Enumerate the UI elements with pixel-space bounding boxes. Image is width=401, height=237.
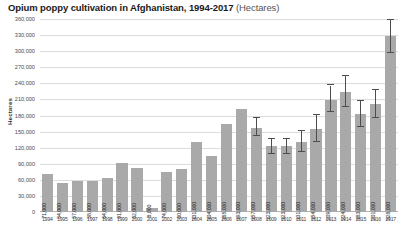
x-axis-tick: 2007 [234, 216, 249, 222]
x-axis-tick: 2002 [159, 216, 174, 222]
bar-slot: 91,000 [115, 19, 130, 212]
x-axis-tick-labels: 1994199519961997199819992000200120022003… [40, 216, 398, 222]
bar[interactable]: 57,000 [72, 181, 83, 212]
x-axis-tick: 2006 [219, 216, 234, 222]
bar[interactable]: 8,000 [146, 208, 157, 212]
bar[interactable]: 131,000 [191, 142, 202, 212]
x-axis-tick: 1996 [70, 216, 85, 222]
bar[interactable]: 64,000 [102, 178, 113, 212]
bar[interactable]: 224,000 [340, 92, 351, 212]
y-axis-tick: 0 [0, 209, 35, 215]
bar[interactable]: 131,000 [296, 142, 307, 212]
bar-slot: 209,000 [324, 19, 339, 212]
bar[interactable]: 71,000 [42, 174, 53, 212]
x-axis-tick: 2011 [294, 216, 309, 222]
error-bar-cap-upper [342, 75, 349, 76]
bar-slot: 201,000 [368, 19, 383, 212]
error-bar-cap-lower [327, 111, 334, 112]
x-axis-tick: 1998 [100, 216, 115, 222]
error-bar-cap-upper [253, 117, 260, 118]
bar-slot: 123,000 [264, 19, 279, 212]
x-axis-tick: 2014 [338, 216, 353, 222]
chart-title-units: (Hectares) [236, 2, 279, 13]
bar[interactable]: 193,000 [236, 109, 247, 212]
x-axis-tick: 1999 [115, 216, 130, 222]
x-axis-tick: 2003 [174, 216, 189, 222]
error-bar-cap-upper [357, 100, 364, 101]
bar[interactable]: 209,000 [325, 100, 336, 212]
error-bar-cap-upper [298, 130, 305, 131]
bar[interactable]: 91,000 [116, 163, 127, 212]
y-axis-tick: 300,000 [0, 48, 35, 54]
y-axis-tick: 240,000 [0, 80, 35, 86]
error-bar-cap-lower [357, 126, 364, 127]
bar-slot: 224,000 [338, 19, 353, 212]
bar[interactable]: 54,000 [57, 183, 68, 212]
bar[interactable]: 201,000 [370, 104, 381, 212]
x-axis-tick: 2008 [249, 216, 264, 222]
x-axis-tick: 2001 [144, 216, 159, 222]
bar[interactable]: 328,000 [385, 36, 396, 212]
error-bar-cap-upper [372, 89, 379, 90]
y-axis-tick: 150,000 [0, 129, 35, 135]
bar-slot: 157,000 [249, 19, 264, 212]
error-bar-line [301, 131, 302, 152]
x-axis-tick: 2015 [353, 216, 368, 222]
error-bar-cap-upper [327, 84, 334, 85]
x-axis-tick: 2009 [264, 216, 279, 222]
x-axis-tick: 2012 [309, 216, 324, 222]
bar-slot: 64,000 [100, 19, 115, 212]
plot-area: 360,000330,000300,000270,000240,000210,0… [40, 19, 398, 212]
error-bar-cap-upper [283, 138, 290, 139]
bar-slot: 183,000 [353, 19, 368, 212]
bar-slot: 131,000 [189, 19, 204, 212]
bar-slot: 123,000 [279, 19, 294, 212]
x-axis-tick: 2017 [383, 216, 398, 222]
bar-slot: 154,000 [309, 19, 324, 212]
bar[interactable]: 165,000 [221, 124, 232, 212]
x-axis-tick: 2016 [368, 216, 383, 222]
bar[interactable]: 157,000 [251, 128, 262, 212]
error-bar-cap-lower [253, 135, 260, 136]
error-bar-cap-lower [298, 151, 305, 152]
bar[interactable]: 123,000 [266, 146, 277, 212]
error-bar-line [390, 20, 391, 53]
x-axis-tick: 2004 [189, 216, 204, 222]
x-axis-tick: 2010 [279, 216, 294, 222]
bar[interactable]: 82,000 [131, 168, 142, 212]
error-bar-cap-upper [268, 138, 275, 139]
bar-slot: 74,000 [159, 19, 174, 212]
y-axis-tick: 270,000 [0, 64, 35, 70]
chart-title-text: Opium poppy cultivation in Afghanistan, … [8, 2, 233, 13]
y-axis-tick: 90,000 [0, 161, 35, 167]
bar-slot: 58,000 [85, 19, 100, 212]
bar[interactable]: 123,000 [281, 146, 292, 212]
y-axis-tick: 60,000 [0, 177, 35, 183]
error-bar-cap-lower [268, 153, 275, 154]
x-axis-tick: 2005 [204, 216, 219, 222]
bar-slot: 193,000 [234, 19, 249, 212]
chart-title: Opium poppy cultivation in Afghanistan, … [8, 2, 398, 13]
x-axis-tick: 1995 [55, 216, 70, 222]
error-bar-line [316, 115, 317, 142]
error-bar-line [360, 101, 361, 127]
error-bar-cap-lower [342, 106, 349, 107]
bar-slot: 165,000 [219, 19, 234, 212]
bar-slot: 104,000 [204, 19, 219, 212]
bar-slot: 57,000 [70, 19, 85, 212]
bar[interactable]: 104,000 [206, 156, 217, 212]
bar-slot: 8,000 [144, 19, 159, 212]
bar[interactable]: 183,000 [355, 114, 366, 212]
bar[interactable]: 74,000 [161, 172, 172, 212]
bar[interactable]: 58,000 [87, 181, 98, 212]
y-axis-tick: 210,000 [0, 96, 35, 102]
error-bar-line [271, 139, 272, 155]
error-bar-line [345, 76, 346, 107]
error-bar-line [330, 86, 331, 113]
error-bar-cap-lower [372, 117, 379, 118]
bar-slot: 80,000 [174, 19, 189, 212]
y-axis-tick: 120,000 [0, 145, 35, 151]
y-axis-tick: 330,000 [0, 32, 35, 38]
error-bar-line [256, 118, 257, 136]
bar[interactable]: 80,000 [176, 169, 187, 212]
